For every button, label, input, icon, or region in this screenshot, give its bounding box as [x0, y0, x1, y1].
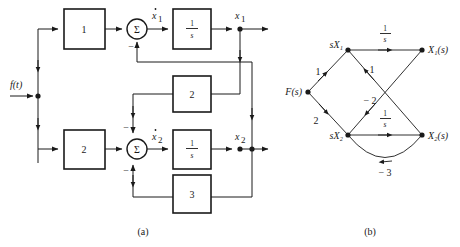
- node-label-sX2: sX₂: [330, 130, 344, 141]
- block-label-feedback-3: 3: [190, 189, 195, 200]
- panel-b-edges: [308, 50, 422, 162]
- panel-a-summers: Σ − Σ − −: [123, 19, 147, 176]
- node-label-X1: X₁(s): [427, 44, 449, 56]
- label-x1: x 1: [234, 10, 246, 24]
- block-label-gain-2-left: 2: [82, 144, 87, 155]
- svg-text:2: 2: [158, 135, 163, 145]
- edge-X2-to-sX2-arc: [348, 135, 422, 158]
- caption-a: (a): [137, 226, 148, 238]
- svg-text:2: 2: [241, 135, 246, 145]
- figure-container: 1 2 2 3 1 s 1 s Σ − Σ − −: [0, 0, 460, 247]
- svg-text:1: 1: [190, 139, 194, 148]
- label-x2: x 2: [234, 131, 246, 145]
- svg-text:s: s: [191, 31, 194, 40]
- svg-text:x: x: [151, 10, 157, 21]
- svg-text:1: 1: [190, 19, 194, 28]
- dot-accent-x2: [155, 129, 157, 131]
- node-sX2: [345, 132, 350, 137]
- gain-sX2-to-X2: 1 s: [380, 109, 391, 129]
- summer-1-sign-bottom: −: [128, 41, 134, 52]
- summer-2-sign-bottom: −: [123, 165, 129, 176]
- node-X2: [419, 132, 424, 137]
- svg-text:x: x: [234, 10, 240, 21]
- edge-F-to-sX2: [308, 92, 348, 135]
- node-X1: [419, 47, 424, 52]
- panel-b-edge-gains: 1 2 1 s 1 s 1 − 2 − 3: [314, 24, 392, 178]
- svg-text:1: 1: [383, 24, 387, 33]
- summer-1-glyph: Σ: [134, 24, 140, 35]
- node-label-X2: X₂(s): [427, 130, 449, 142]
- gain-X2-to-sX1: 1: [370, 64, 375, 75]
- caption-b: (b): [364, 226, 376, 238]
- figure-svg: 1 2 2 3 1 s 1 s Σ − Σ − −: [0, 0, 460, 247]
- svg-text:1: 1: [383, 109, 387, 118]
- block-integrator-1: [173, 9, 211, 49]
- svg-text:1: 1: [241, 14, 246, 24]
- svg-text:s: s: [384, 120, 387, 129]
- node-sX1: [345, 47, 350, 52]
- dot-accent-x1: [155, 8, 157, 10]
- panel-a-wires: [10, 26, 268, 197]
- edge-F-to-sX1: [308, 50, 348, 92]
- gain-X2-to-sX2: − 3: [378, 167, 391, 178]
- svg-text:s: s: [191, 151, 194, 160]
- node-label-sX1: sX₁: [330, 39, 343, 50]
- gain-F-to-sX1: 1: [316, 66, 321, 77]
- svg-text:x: x: [234, 131, 240, 142]
- node-F: [305, 89, 310, 94]
- block-integrator-2: [173, 130, 211, 169]
- block-label-gain-1-top: 1: [82, 24, 87, 35]
- svg-text:1: 1: [158, 14, 163, 24]
- svg-text:x: x: [151, 131, 157, 142]
- label-input-ft: f(t): [10, 79, 23, 91]
- svg-text:s: s: [384, 35, 387, 44]
- block-label-feedback-2: 2: [190, 89, 195, 100]
- panel-b-nodes: [305, 47, 424, 137]
- summer-2-glyph: Σ: [134, 144, 140, 155]
- label-x2dot: x 2: [151, 129, 163, 145]
- gain-X1-to-sX2: − 2: [363, 95, 376, 106]
- label-x1dot: x 1: [151, 8, 163, 24]
- gain-sX1-to-X1: 1 s: [380, 24, 391, 44]
- summer-2-sign-top: −: [123, 122, 129, 133]
- node-label-F: F(s): [284, 86, 302, 98]
- gain-F-to-sX2: 2: [314, 115, 319, 126]
